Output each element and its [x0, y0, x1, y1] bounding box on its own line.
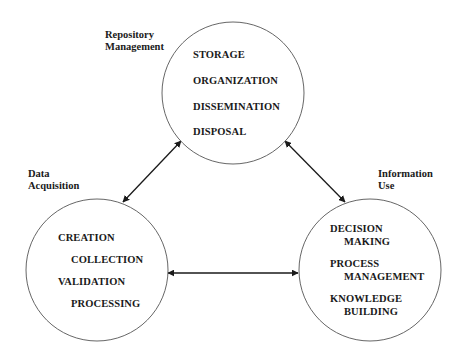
node-title-line: Information [378, 168, 433, 179]
edge-repository-use [285, 141, 345, 202]
edge-acquisition-repository [123, 141, 181, 202]
node-item: BUILDING [344, 306, 398, 317]
node-item: CREATION [58, 232, 115, 243]
node-item: STORAGE [193, 49, 245, 60]
node-title-line: Use [378, 180, 395, 191]
node-title-line: Acquisition [28, 180, 80, 191]
node-title-line: Management [105, 41, 164, 52]
node-item: DISSEMINATION [193, 101, 280, 112]
node-item: MANAGEMENT [344, 271, 424, 282]
lifecycle-diagram: Repository Management STORAGE ORGANIZATI… [0, 0, 464, 360]
node-information-use: Information Use DECISION MAKING PROCESS … [299, 168, 441, 341]
node-item: DISPOSAL [193, 126, 246, 137]
node-data-acquisition: Data Acquisition CREATION COLLECTION VAL… [26, 168, 168, 341]
node-item: VALIDATION [58, 276, 125, 287]
node-item: PROCESSING [71, 298, 140, 309]
node-item: DECISION [330, 223, 383, 234]
node-item: KNOWLEDGE [330, 293, 402, 304]
node-circle-acquisition [26, 199, 168, 341]
node-item: COLLECTION [71, 254, 143, 265]
node-repository-management: Repository Management STORAGE ORGANIZATI… [105, 22, 304, 164]
node-title-line: Repository [105, 29, 155, 40]
node-item: PROCESS [330, 258, 379, 269]
node-item: ORGANIZATION [193, 75, 278, 86]
node-title-line: Data [28, 168, 50, 179]
node-circle-use [299, 199, 441, 341]
node-circle-repository [162, 22, 304, 164]
node-item: MAKING [344, 236, 390, 247]
